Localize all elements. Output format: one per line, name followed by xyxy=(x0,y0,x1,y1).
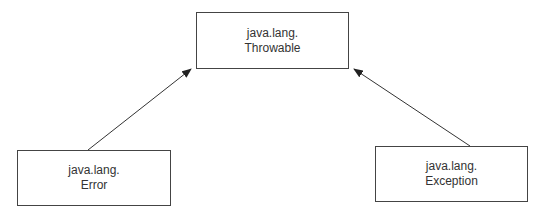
node-throwable: java.lang. Throwable xyxy=(196,12,349,69)
node-throwable-package: java.lang. xyxy=(247,26,298,41)
node-exception-class: Exception xyxy=(425,174,478,189)
node-exception: java.lang. Exception xyxy=(375,146,528,202)
arrow-error-to-throwable xyxy=(88,69,191,150)
node-exception-package: java.lang. xyxy=(426,159,477,174)
node-error-class: Error xyxy=(81,178,108,193)
arrow-exception-to-throwable xyxy=(354,69,470,146)
node-error: java.lang. Error xyxy=(17,150,171,206)
node-error-package: java.lang. xyxy=(68,163,119,178)
node-throwable-class: Throwable xyxy=(244,41,300,56)
